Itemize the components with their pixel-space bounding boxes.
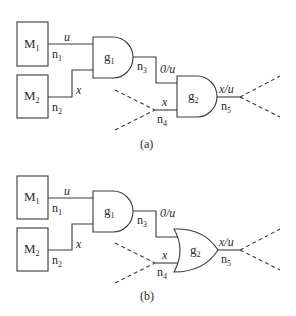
fanin-n4 xyxy=(115,243,155,283)
net-n1-label: n1 xyxy=(52,47,62,63)
signal-n4-value: x xyxy=(161,95,168,109)
net-n4-label: n4 xyxy=(157,265,167,281)
net-n2-label: n2 xyxy=(52,253,62,269)
panel-b: M1 M2 g1 g2 u x 0/u x x/u n1 n2 n3 n4 n5… xyxy=(17,176,280,303)
signal-n5-value: x/u xyxy=(218,82,234,96)
signal-n5-value: x/u xyxy=(218,235,234,249)
fanin-n4 xyxy=(115,90,155,130)
caption-a: (a) xyxy=(140,137,153,151)
wire-n2 xyxy=(48,224,93,250)
net-n5-label: n5 xyxy=(221,252,231,268)
signal-n1-value: u xyxy=(64,184,70,198)
net-n3-label: n3 xyxy=(137,59,147,75)
circuit-diagram: M1 M2 g1 g2 u x 0/u x x/u n1 n2 n3 n4 n5… xyxy=(0,0,296,316)
net-n1-label: n1 xyxy=(52,201,62,217)
signal-n3-value: 0/u xyxy=(160,62,175,76)
net-n3-label: n3 xyxy=(137,213,147,229)
net-n2-label: n2 xyxy=(52,100,62,116)
caption-b: (b) xyxy=(140,289,154,303)
signal-n2-value: x xyxy=(75,237,82,251)
signal-n4-value: x xyxy=(161,248,168,262)
net-n5-label: n5 xyxy=(221,99,231,115)
fanout-n5 xyxy=(240,229,280,270)
signal-n3-value: 0/u xyxy=(160,206,175,220)
fanout-n5 xyxy=(240,76,280,117)
net-n4-label: n4 xyxy=(157,112,167,128)
wire-n2 xyxy=(48,70,93,97)
signal-n2-value: x xyxy=(75,83,82,97)
panel-a: M1 M2 g1 g2 u x 0/u x x/u n1 n2 n3 n4 n5… xyxy=(17,22,280,151)
signal-n1-value: u xyxy=(64,30,70,44)
